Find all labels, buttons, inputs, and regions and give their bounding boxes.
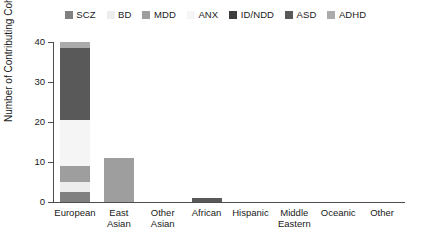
x-axis-label-hispanic: Hispanic xyxy=(229,207,273,218)
legend-item-asd[interactable]: ASD xyxy=(285,10,316,20)
legend-label: SCZ xyxy=(76,10,95,20)
x-axis-label-line: Asian xyxy=(97,218,141,229)
legend-swatch-icon xyxy=(327,11,335,19)
bar-segment-asd xyxy=(60,48,90,120)
chart-figure: SCZBDMDDANXID/NDDASDADHD 010203040 Numbe… xyxy=(0,0,431,245)
y-axis-tick-label: 0 xyxy=(5,196,45,208)
bar-segment-anx xyxy=(60,120,90,166)
bar-european[interactable] xyxy=(60,42,90,202)
legend-item-anx[interactable]: ANX xyxy=(187,10,218,20)
x-axis-label-other-asian: OtherAsian xyxy=(141,207,185,229)
x-axis-label-line: Other xyxy=(141,207,185,218)
x-axis-label-line: Other xyxy=(360,207,404,218)
legend-item-mdd[interactable]: MDD xyxy=(142,10,175,20)
legend-item-id-ndd[interactable]: ID/NDD xyxy=(229,10,274,20)
legend-swatch-icon xyxy=(142,11,150,19)
x-axis-label-line: Middle xyxy=(272,207,316,218)
x-axis-label-line: Hispanic xyxy=(229,207,273,218)
y-axis-title: Number of Contributing Cohorts xyxy=(4,0,14,122)
x-axis-label-line: European xyxy=(53,207,97,218)
x-axis-line xyxy=(53,202,405,203)
legend-item-bd[interactable]: BD xyxy=(107,10,132,20)
x-axis-label-line: East xyxy=(97,207,141,218)
legend-swatch-icon xyxy=(107,11,115,19)
legend-label: MDD xyxy=(154,10,176,20)
x-axis-label-african: African xyxy=(185,207,229,218)
legend-item-adhd[interactable]: ADHD xyxy=(327,10,366,20)
x-axis-label-other: Other xyxy=(360,207,404,218)
legend-swatch-icon xyxy=(285,11,293,19)
x-axis-label-european: European xyxy=(53,207,97,218)
bar-african[interactable] xyxy=(192,198,222,202)
legend-swatch-icon xyxy=(229,11,237,19)
legend-label: ASD xyxy=(297,10,317,20)
x-axis-label-east-asian: EastAsian xyxy=(97,207,141,229)
y-axis-tick-label: 10 xyxy=(5,156,45,168)
plot-area xyxy=(53,42,404,202)
legend-label: ANX xyxy=(198,10,218,20)
legend-label: ADHD xyxy=(339,10,366,20)
legend-label: BD xyxy=(118,10,131,20)
x-axis-label-line: Eastern xyxy=(272,218,316,229)
legend-swatch-icon xyxy=(65,11,73,19)
bar-segment-mdd xyxy=(60,166,90,182)
bar-segment-asd xyxy=(192,198,222,202)
legend-item-scz[interactable]: SCZ xyxy=(65,10,96,20)
legend-swatch-icon xyxy=(187,11,195,19)
chart-legend: SCZBDMDDANXID/NDDASDADHD xyxy=(0,10,431,20)
x-axis-label-oceanic: Oceanic xyxy=(316,207,360,218)
bar-segment-scz xyxy=(60,192,90,202)
y-axis-tick xyxy=(48,202,53,203)
x-axis-label-line: Asian xyxy=(141,218,185,229)
bar-segment-mdd xyxy=(104,158,134,202)
x-axis-label-line: Oceanic xyxy=(316,207,360,218)
x-axis-label-line: African xyxy=(185,207,229,218)
x-axis-label-middle-eastern: MiddleEastern xyxy=(272,207,316,229)
bar-east-asian[interactable] xyxy=(104,158,134,202)
bar-segment-bd xyxy=(60,182,90,192)
legend-label: ID/NDD xyxy=(241,10,274,20)
